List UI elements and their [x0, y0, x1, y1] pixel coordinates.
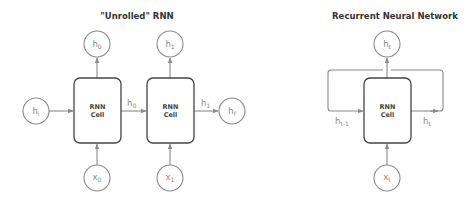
rnn-cell-1: RNN Cell: [147, 78, 194, 143]
rnn-cell-recurrent: RNN Cell: [364, 78, 411, 143]
rnn-diagram-canvas: "Unrolled" RNN h0 h1 RNN Cell RNN Cell h…: [0, 0, 468, 202]
unrolled-rnn-diagram: "Unrolled" RNN h0 h1 RNN Cell RNN Cell h…: [23, 11, 245, 191]
recurrent-rnn-diagram: Recurrent Neural Network ht-1 ht RNN Cel…: [328, 11, 458, 191]
edge-label-ht-1: ht-1: [335, 116, 349, 127]
recurrent-rnn-title: Recurrent Neural Network: [332, 11, 458, 21]
node-x0: x0: [84, 165, 110, 191]
cell-recurrent-label-line2: Cell: [381, 111, 395, 119]
node-xt: xt: [374, 165, 400, 191]
node-x1: x1: [157, 165, 183, 191]
cell-1-label-line2: Cell: [164, 111, 178, 119]
cell-0-label-line1: RNN: [90, 103, 106, 111]
node-hf: hf: [219, 98, 245, 124]
cell-1-label-line1: RNN: [163, 103, 179, 111]
edge-label-h1: h1: [201, 98, 210, 109]
node-h1: h1: [157, 31, 183, 57]
edge-label-ht: ht: [423, 116, 431, 127]
edge-label-h0: h0: [127, 98, 136, 109]
node-hi: hi: [23, 98, 49, 124]
node-ht: ht: [374, 31, 400, 57]
node-h0: h0: [84, 31, 110, 57]
cell-0-label-line2: Cell: [91, 111, 105, 119]
rnn-cell-0: RNN Cell: [74, 78, 121, 143]
cell-recurrent-label-line1: RNN: [380, 103, 396, 111]
unrolled-rnn-title: "Unrolled" RNN: [100, 11, 173, 21]
